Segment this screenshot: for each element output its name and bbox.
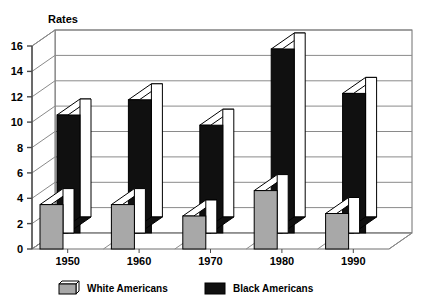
y-tick-label-10: 10 bbox=[11, 116, 23, 128]
legend-label-white-americans: White Americans bbox=[87, 283, 168, 294]
y-tick-label-6: 6 bbox=[17, 167, 23, 179]
y-tick-label-8: 8 bbox=[17, 142, 23, 154]
y-tick-label-2: 2 bbox=[17, 218, 23, 230]
x-tick-label-1980: 1980 bbox=[270, 255, 294, 267]
bar-chart: 0 2 4 6 8 10 12 14 16 Rates bbox=[0, 0, 424, 298]
y-tick-label-4: 4 bbox=[17, 192, 24, 204]
chart-canvas: 0 2 4 6 8 10 12 14 16 Rates bbox=[0, 0, 424, 298]
x-tick-label-1990: 1990 bbox=[341, 255, 365, 267]
x-tick-label-1970: 1970 bbox=[198, 255, 222, 267]
plot-floor bbox=[32, 233, 412, 249]
y-tick-label-16: 16 bbox=[11, 40, 23, 52]
white-americans-swatch bbox=[59, 281, 79, 294]
y-tick-label-0: 0 bbox=[17, 243, 23, 255]
legend-label-black-americans: Black Americans bbox=[233, 283, 314, 294]
black-americans-swatch bbox=[205, 283, 225, 294]
y-tick-label-12: 12 bbox=[11, 91, 23, 103]
x-tick-label-1960: 1960 bbox=[127, 255, 151, 267]
x-tick-label-1950: 1950 bbox=[55, 255, 79, 267]
y-axis-title: Rates bbox=[48, 13, 78, 25]
y-tick-label-14: 14 bbox=[11, 65, 24, 77]
